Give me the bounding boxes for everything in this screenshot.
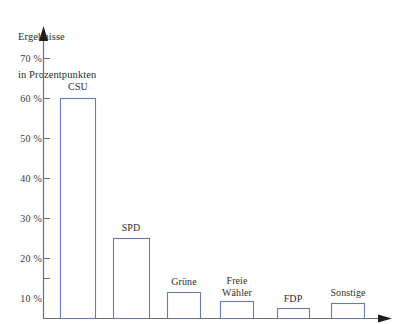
y-axis-arrow-icon [39,26,48,41]
bar-label-freie-waehler-line-2: Wähler [212,287,262,299]
bar-fdp [278,309,310,319]
bar-label-freie-waehler: Freie Wähler [212,275,262,298]
bar-label-gruene: Grüne [159,276,209,288]
x-axis-arrow-icon [378,315,392,323]
bar-label-csu: CSU [53,81,103,93]
bar-csu [61,99,96,319]
bar-label-sonstige: Sonstige [320,287,376,299]
bar-spd [114,239,150,319]
bar-freie-waehler [221,302,254,319]
bar-label-freie-waehler-line-1: Freie [212,275,262,287]
bar-label-spd: SPD [106,222,156,234]
bar-sonstige [332,304,365,319]
bar-label-fdp: FDP [268,293,318,305]
bar-chart: Ergebnisse in Prozentpunkten 70 % 60 % 5… [0,0,399,324]
bar-gruene [168,293,201,319]
